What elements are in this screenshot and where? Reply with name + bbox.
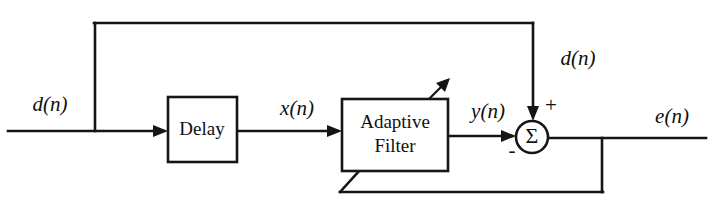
adaptive-filter-label-line1: Adaptive — [360, 111, 430, 132]
signal-label-filter-yn: y(n) — [469, 99, 505, 123]
signal-label-desired-dn: d(n) — [561, 46, 596, 70]
signal-label-input-dn: d(n) — [33, 92, 68, 116]
signal-label-delayed-xn: x(n) — [279, 96, 314, 120]
arrowhead-into-delay — [153, 125, 168, 137]
adaptive-filter-label-line2: Filter — [374, 135, 416, 156]
sigma-icon: Σ — [526, 123, 539, 148]
adaptive-filter-diagram: Delay Adaptive Filter Σ + - d(n) x(n) y(… — [0, 0, 710, 214]
diagram-canvas: Delay Adaptive Filter Σ + - d(n) x(n) y(… — [0, 0, 710, 214]
summer-minus-sign: - — [509, 138, 516, 162]
wire-error-feedback-diagonal — [340, 171, 359, 192]
summer-plus-sign: + — [545, 93, 557, 117]
delay-label: Delay — [179, 118, 225, 139]
arrowhead-into-summer-top — [527, 106, 539, 121]
signal-label-error-en: e(n) — [655, 104, 689, 128]
block-adaptive-filter[interactable]: Adaptive Filter — [342, 99, 448, 171]
arrowhead-into-filter — [327, 125, 342, 137]
block-delay[interactable]: Delay — [168, 97, 237, 162]
